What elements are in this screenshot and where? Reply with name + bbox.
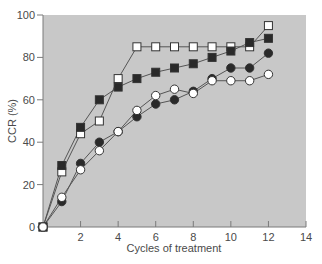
x-tick-label: 4 [115, 231, 121, 243]
data-point [170, 85, 178, 93]
y-tick-label: 60 [23, 94, 35, 106]
data-point [208, 43, 216, 51]
data-point [152, 100, 160, 108]
data-point [245, 64, 253, 72]
y-axis-title: CCR (%) [6, 99, 18, 143]
data-point [152, 43, 160, 51]
y-tick-label: 80 [23, 51, 35, 63]
data-point [246, 39, 254, 47]
data-point [208, 53, 216, 61]
data-point [245, 77, 253, 85]
data-point [39, 223, 47, 231]
data-point [95, 138, 103, 146]
data-point [133, 75, 141, 83]
data-point [58, 193, 66, 201]
ccr-line-chart: 0204060801002468101214 Cycles of treatme… [0, 0, 322, 264]
data-point [171, 64, 179, 72]
data-point [114, 75, 122, 83]
data-point [133, 43, 141, 51]
data-point [95, 146, 103, 154]
x-tick-label: 12 [262, 231, 274, 243]
data-point [227, 64, 235, 72]
data-point [152, 91, 160, 99]
data-point [264, 34, 272, 42]
x-tick-label: 2 [78, 231, 84, 243]
data-point [227, 77, 235, 85]
data-point [189, 60, 197, 68]
y-tick-label: 20 [23, 179, 35, 191]
data-point [152, 68, 160, 76]
x-tick-label: 14 [300, 231, 312, 243]
data-point [77, 123, 85, 131]
data-point [95, 117, 103, 125]
data-point [189, 43, 197, 51]
y-tick-label: 40 [23, 136, 35, 148]
data-point [170, 96, 178, 104]
data-point [227, 47, 235, 55]
data-point [208, 77, 216, 85]
data-point [264, 49, 272, 57]
data-point [133, 106, 141, 114]
y-tick-label: 100 [17, 9, 35, 21]
data-point [264, 70, 272, 78]
x-tick-label: 10 [225, 231, 237, 243]
data-point [171, 43, 179, 51]
data-point [114, 127, 122, 135]
data-point [76, 166, 84, 174]
data-point [264, 22, 272, 30]
x-axis-title: Cycles of treatment [127, 242, 222, 254]
y-tick-label: 0 [29, 221, 35, 233]
data-point [95, 96, 103, 104]
data-point [58, 162, 66, 170]
data-point [114, 83, 122, 91]
data-point [189, 89, 197, 97]
